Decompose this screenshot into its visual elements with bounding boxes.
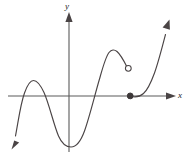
y-axis-arrowhead xyxy=(65,12,72,22)
graph-figure: y x xyxy=(0,0,190,160)
x-axis-label: x xyxy=(178,91,182,100)
x-axis xyxy=(8,92,176,99)
curve-path-left xyxy=(16,50,128,147)
x-axis-arrowhead xyxy=(166,92,176,99)
curve-left-arrowhead xyxy=(12,140,20,149)
filled-dot-endpoint-marker xyxy=(127,93,133,99)
y-axis xyxy=(65,12,72,152)
curve-path-right xyxy=(131,35,166,97)
curve-right-branch xyxy=(131,20,170,97)
y-axis-label: y xyxy=(65,2,69,11)
open-circle-endpoint-marker xyxy=(125,65,131,71)
curve-right-arrowhead xyxy=(163,20,170,30)
graph-canvas xyxy=(0,0,190,160)
